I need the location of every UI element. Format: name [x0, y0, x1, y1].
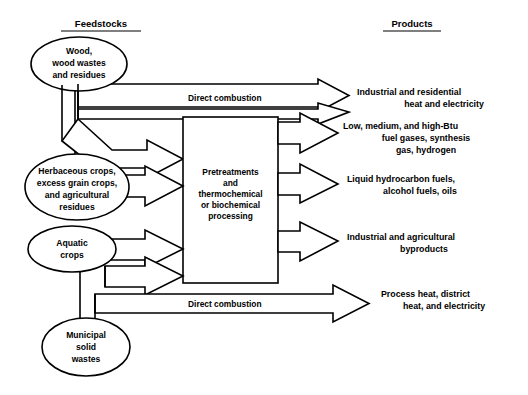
flow-diagram-svg: Feedstocks Products Pretreatments and th…: [0, 0, 528, 395]
svg-text:alcohol fuels, oils: alcohol fuels, oils: [383, 186, 457, 196]
svg-text:or biochemical: or biochemical: [201, 200, 260, 210]
svg-text:Industrial and residential: Industrial and residential: [357, 87, 461, 97]
svg-text:Aquatic: Aquatic: [56, 238, 88, 248]
feedstocks-header: Feedstocks: [61, 18, 141, 31]
svg-text:heat and electricity: heat and electricity: [404, 99, 484, 109]
direct-combustion-bottom-label: Direct combustion: [188, 299, 262, 309]
svg-text:processing: processing: [208, 211, 253, 221]
svg-text:Wood,: Wood,: [66, 46, 92, 56]
svg-text:wastes: wastes: [71, 354, 101, 364]
products-header: Products: [383, 18, 441, 31]
diagram-canvas: Feedstocks Products Pretreatments and th…: [0, 0, 528, 395]
product-arrow-byproducts: [278, 222, 338, 261]
svg-text:thermochemical: thermochemical: [198, 189, 262, 199]
svg-text:Herbaceous crops,: Herbaceous crops,: [38, 166, 115, 176]
svg-text:and residues: and residues: [52, 70, 105, 80]
svg-text:Industrial and agricultural: Industrial and agricultural: [347, 232, 455, 242]
product-arrow-liquid-fuels: [278, 164, 338, 203]
svg-text:Pretreatments: Pretreatments: [202, 167, 259, 177]
feedstock-node-aquatic[interactable]: Aquatic crops: [28, 226, 116, 272]
svg-text:Municipal: Municipal: [66, 330, 106, 340]
product-label-process-heat: Process heat, district heat, and electri…: [381, 289, 485, 311]
products-header-label: Products: [391, 18, 432, 29]
municipal-to-process-arrow: [105, 257, 183, 295]
svg-text:residues: residues: [59, 202, 95, 212]
feedstock-node-municipal[interactable]: Municipal solid wastes: [42, 318, 130, 376]
svg-text:heat, and electricity: heat, and electricity: [403, 301, 485, 311]
herbaceous-to-process-arrow: [122, 166, 183, 206]
svg-text:Low, medium, and high-Btu: Low, medium, and high-Btu: [343, 121, 458, 131]
svg-text:solid: solid: [76, 342, 96, 352]
product-label-byproducts: Industrial and agricultural byproducts: [347, 232, 455, 254]
product-label-liquid-fuels: Liquid hydrocarbon fuels, alcohol fuels,…: [347, 174, 457, 196]
feedstocks-header-label: Feedstocks: [75, 18, 127, 29]
svg-text:crops: crops: [60, 250, 84, 260]
feedstock-node-herbaceous[interactable]: Herbaceous crops, excess grain crops, an…: [25, 154, 129, 220]
product-label-heat-electricity: Industrial and residential heat and elec…: [357, 87, 484, 109]
svg-text:fuel gases, synthesis: fuel gases, synthesis: [382, 133, 471, 143]
feedstock-node-wood[interactable]: Wood, wood wastes and residues: [31, 37, 127, 91]
svg-text:Liquid hydrocarbon fuels,: Liquid hydrocarbon fuels,: [347, 174, 455, 184]
aquatic-ellipse: [28, 226, 116, 272]
direct-combustion-top-label: Direct combustion: [188, 93, 262, 103]
svg-text:byproducts: byproducts: [400, 244, 448, 254]
product-label-fuel-gases: Low, medium, and high-Btu fuel gases, sy…: [343, 121, 470, 155]
svg-text:excess grain crops,: excess grain crops,: [37, 178, 117, 188]
svg-text:Process heat, district: Process heat, district: [381, 289, 470, 299]
svg-text:gas, hydrogen: gas, hydrogen: [396, 145, 456, 155]
svg-text:wood wastes: wood wastes: [51, 58, 106, 68]
svg-text:and: and: [223, 178, 238, 188]
svg-text:and agricultural: and agricultural: [45, 190, 109, 200]
